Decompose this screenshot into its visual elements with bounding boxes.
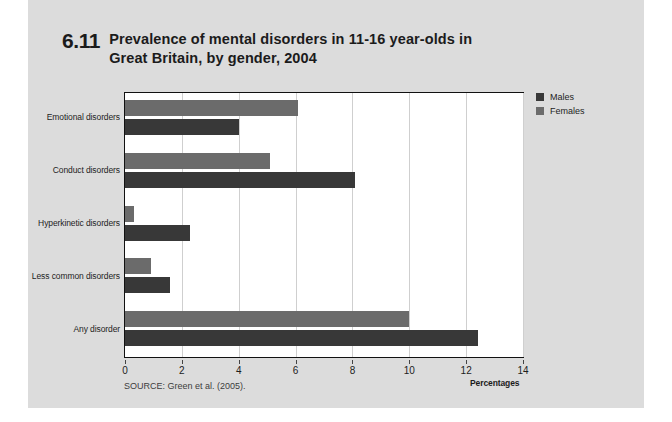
legend-label: Males (550, 92, 574, 102)
bar-females (125, 206, 134, 222)
bar-females (125, 311, 409, 327)
bar-group (125, 251, 523, 304)
legend-swatch-males (536, 93, 544, 101)
x-axis-title: Percentages (470, 378, 519, 388)
bar-males (125, 172, 355, 188)
x-tick-mark (352, 360, 353, 364)
figure-page: 6.11 Prevalence of mental disorders in 1… (0, 0, 672, 422)
chart-legend: MalesFemales (536, 92, 636, 120)
bar-group (125, 199, 523, 252)
bar-group (125, 93, 523, 146)
category-label: Emotional disorders (10, 112, 120, 122)
bar-females (125, 258, 151, 274)
bar-males (125, 225, 190, 241)
x-tick-mark (409, 360, 410, 364)
x-tick-label: 6 (293, 365, 299, 376)
x-tick-mark (125, 360, 126, 364)
x-tick-mark (182, 360, 183, 364)
bar-group (125, 304, 523, 357)
category-label: Any disorder (10, 324, 120, 334)
x-tick-label: 12 (461, 365, 472, 376)
x-tick-mark (296, 360, 297, 364)
figure-heading: 6.11 Prevalence of mental disorders in 1… (62, 30, 542, 68)
legend-label: Females (550, 106, 585, 116)
figure-title-line2: Great Britain, by gender, 2004 (109, 49, 472, 68)
category-label: Conduct disorders (10, 165, 120, 175)
legend-item: Females (536, 106, 636, 116)
plot-area (124, 92, 524, 358)
x-tick-label: 4 (236, 365, 242, 376)
figure-title-line1: Prevalence of mental disorders in 11-16 … (109, 30, 472, 49)
figure-number: 6.11 (62, 30, 100, 51)
category-axis-labels: Emotional disordersConduct disordersHype… (4, 92, 120, 358)
x-tick-mark (239, 360, 240, 364)
bar-females (125, 153, 270, 169)
category-label: Hyperkinetic disorders (10, 218, 120, 228)
bar-group (125, 146, 523, 199)
x-tick-label: 10 (404, 365, 415, 376)
x-tick-mark (523, 360, 524, 364)
legend-swatch-females (536, 107, 544, 115)
gridline-14 (523, 93, 524, 357)
bar-males (125, 330, 478, 346)
x-axis: 02468101214 (124, 360, 524, 382)
legend-item: Males (536, 92, 636, 102)
x-tick-label: 8 (350, 365, 356, 376)
x-tick-label: 14 (517, 365, 528, 376)
bar-males (125, 277, 170, 293)
bar-males (125, 119, 239, 135)
category-label: Less common disorders (10, 271, 120, 281)
x-tick-label: 2 (179, 365, 185, 376)
bar-females (125, 100, 298, 116)
source-note: SOURCE: Green et al. (2005). (124, 381, 246, 391)
x-tick-label: 0 (122, 365, 128, 376)
x-tick-mark (466, 360, 467, 364)
